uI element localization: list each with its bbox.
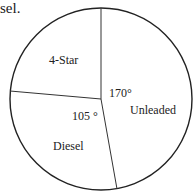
slice-label-diesel: Diesel [53,139,84,153]
slice-label-4-star: 4-Star [49,53,78,67]
pie-chart: 4-Star Unleaded Diesel 170° 105 ° [0,0,193,194]
angle-label-diesel: 105 ° [72,109,98,123]
slice-label-unleaded: Unleaded [130,103,176,117]
angle-label-unleaded: 170° [109,86,132,100]
